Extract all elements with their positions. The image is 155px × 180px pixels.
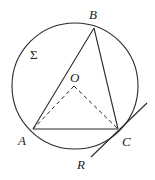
segment-ab [33,28,94,129]
label-b: B [89,7,97,22]
radius-oc-dashed [74,86,118,129]
label-o: O [70,70,80,85]
segment-bc [94,28,118,129]
label-a: A [17,133,26,148]
label-r: R [76,157,85,172]
radius-oa-dashed [33,86,74,129]
label-c: C [122,134,131,149]
circle-geometry-diagram: B Σ O A C R [0,0,155,180]
label-sigma: Σ [30,47,38,62]
